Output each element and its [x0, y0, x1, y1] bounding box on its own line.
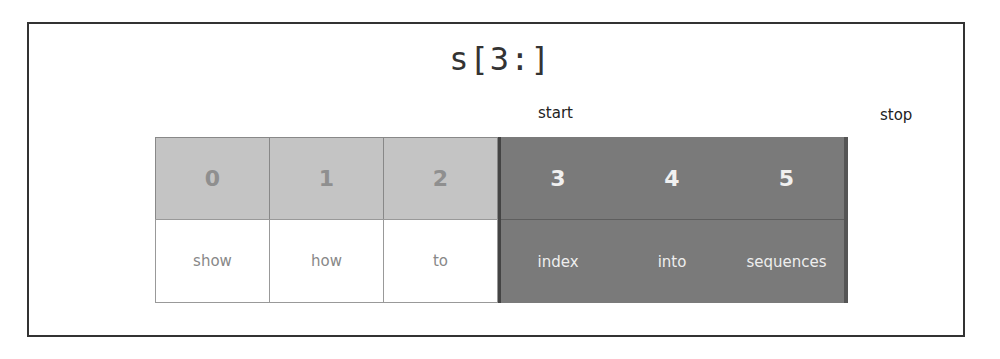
word-cell-1: how	[269, 219, 384, 303]
word-cell-5: sequences	[729, 220, 844, 303]
index-cell-4: 4	[615, 137, 729, 219]
index-cell-1: 1	[269, 137, 384, 220]
word-cell-2: to	[383, 219, 498, 303]
index-cell-0: 0	[155, 137, 270, 220]
start-label: start	[538, 104, 573, 122]
stop-label: stop	[880, 106, 912, 124]
index-cell-3: 3	[501, 137, 615, 219]
index-cell-5: 5	[729, 137, 844, 219]
word-cell-3: index	[501, 220, 615, 303]
word-cell-0: show	[155, 219, 270, 303]
index-cell-2: 2	[383, 137, 498, 220]
slice-expression-title: s[3:]	[0, 40, 1000, 78]
word-cell-4: into	[615, 220, 729, 303]
